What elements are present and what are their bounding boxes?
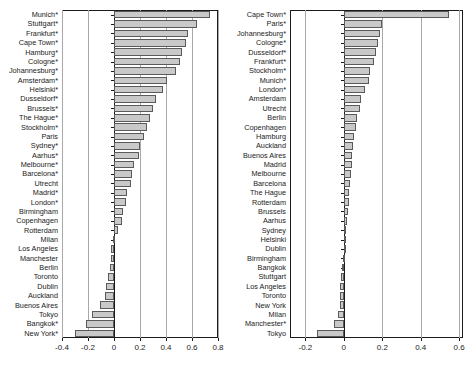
category-label: Amsterdam: [228, 94, 286, 103]
bar: [114, 217, 122, 225]
x-axis-tick: [62, 338, 63, 341]
gridline: [382, 10, 383, 338]
category-label: Munich*: [228, 76, 286, 85]
category-label: Barcelona: [228, 179, 286, 188]
bar: [344, 39, 378, 47]
bar: [340, 283, 343, 291]
bar: [343, 255, 345, 263]
category-label: Los Angeles: [0, 244, 58, 253]
category-label: The Hague: [228, 188, 286, 197]
plot-frame: [290, 10, 463, 338]
bar: [114, 95, 156, 103]
category-label: Rotterdam: [0, 226, 58, 235]
category-label: Johannesburg*: [228, 29, 286, 38]
bar: [344, 226, 346, 234]
bar: [114, 152, 139, 160]
category-label: Aarhus: [228, 216, 286, 225]
bar: [344, 152, 352, 160]
category-label: Stuttgart: [228, 272, 286, 281]
bar: [344, 133, 355, 141]
category-label: Dublin: [0, 282, 58, 291]
bar: [114, 114, 150, 122]
bar: [344, 198, 349, 206]
category-label: Auckland: [0, 291, 58, 300]
bar: [113, 236, 115, 244]
bar: [344, 170, 351, 178]
category-label: Manchester*: [228, 319, 286, 328]
category-label: Munich*: [0, 10, 58, 19]
x-axis-tick: [305, 338, 306, 341]
category-label: Melbourne: [228, 169, 286, 178]
bar: [114, 123, 147, 131]
bar: [114, 208, 123, 216]
x-axis-tick: [140, 338, 141, 341]
category-label: Hamburg: [228, 132, 286, 141]
bar: [341, 273, 344, 281]
bar: [92, 311, 114, 319]
bar: [344, 67, 370, 75]
bar: [344, 114, 357, 122]
bar: [114, 133, 144, 141]
bar: [344, 123, 356, 131]
category-label: Toronto: [228, 291, 286, 300]
bar: [114, 86, 163, 94]
category-label: Madrid*: [0, 188, 58, 197]
bar: [114, 170, 132, 178]
bar: [108, 273, 115, 281]
x-axis-tick: [218, 338, 219, 341]
bar: [114, 20, 197, 28]
category-label: Dusseldorf*: [228, 48, 286, 57]
category-label: Cape Town*: [228, 10, 286, 19]
bar: [105, 292, 114, 300]
category-label: Los Angeles: [228, 282, 286, 291]
category-label: Helsinki: [228, 235, 286, 244]
x-axis-tick-label: 0.6: [444, 343, 469, 352]
bar: [75, 330, 114, 338]
x-axis-tick: [459, 338, 460, 341]
bar: [86, 320, 114, 328]
bar: [344, 189, 350, 197]
bar: [114, 67, 176, 75]
category-label: Dublin: [228, 244, 286, 253]
bar: [344, 86, 366, 94]
category-label: Birmingham: [228, 254, 286, 263]
bar: [111, 245, 114, 253]
category-label: London*: [228, 85, 286, 94]
category-label: Frankfurt*: [228, 57, 286, 66]
category-label: Helsinki*: [0, 85, 58, 94]
category-label: Milan: [0, 235, 58, 244]
category-label: Madrid: [228, 160, 286, 169]
x-axis-tick-label: 0.2: [367, 343, 397, 352]
bar: [114, 77, 167, 85]
category-label: The Hague*: [0, 113, 58, 122]
category-label: Johannesburg*: [0, 66, 58, 75]
bar: [114, 189, 127, 197]
category-label: Rotterdam: [228, 198, 286, 207]
category-label: Copenhagen: [0, 216, 58, 225]
bar: [114, 48, 182, 56]
category-label: Buenos Aires: [0, 301, 58, 310]
bar: [344, 58, 374, 66]
gridline: [62, 10, 63, 338]
bar: [344, 11, 449, 19]
category-label: New York: [228, 301, 286, 310]
category-label: Utrecht: [228, 104, 286, 113]
bar: [340, 292, 344, 300]
x-axis-tick: [382, 338, 383, 341]
bar: [344, 30, 381, 38]
x-axis-tick: [421, 338, 422, 341]
gridline: [192, 10, 193, 338]
bar: [114, 30, 188, 38]
category-label: Birmingham: [0, 207, 58, 216]
bar: [344, 95, 361, 103]
category-label: Berlin: [228, 113, 286, 122]
category-label: Bangkok*: [0, 319, 58, 328]
chart-panel-left: -0.4-0.200.20.40.60.8Munich*Stuttgart*Fr…: [0, 0, 228, 372]
category-label: Paris*: [228, 19, 286, 28]
category-label: Stockholm*: [0, 123, 58, 132]
category-label: Stockholm*: [228, 66, 286, 75]
bar: [344, 48, 377, 56]
bar: [114, 11, 210, 19]
category-label: Milan: [228, 310, 286, 319]
